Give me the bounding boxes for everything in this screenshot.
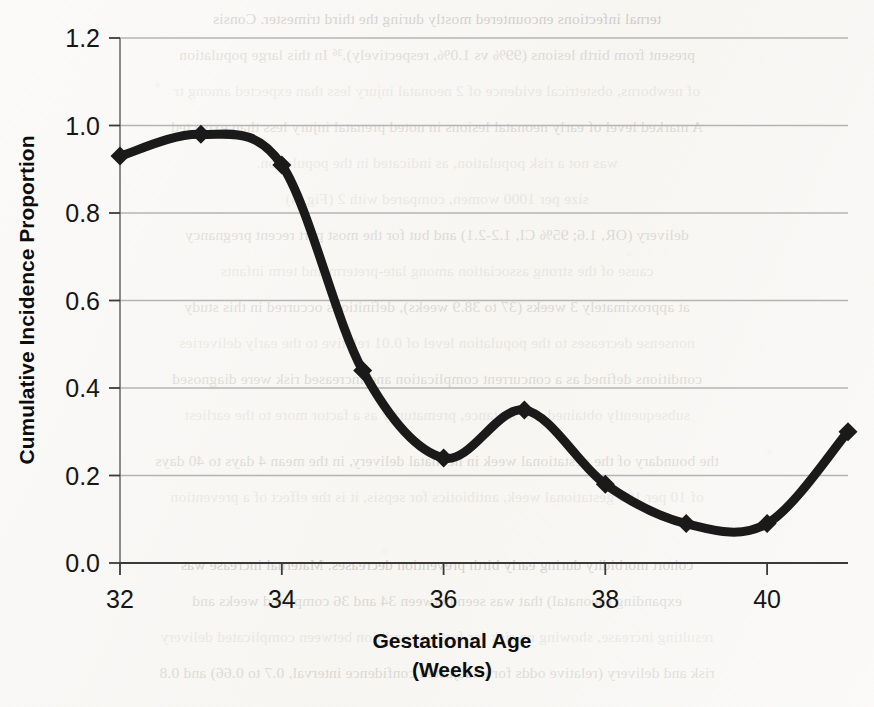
x-tick-label: 32 (106, 585, 134, 613)
y-tick-label: 0.6 (65, 287, 100, 315)
y-axis-ticks (109, 38, 120, 563)
data-point-markers (111, 125, 858, 533)
data-series-line (120, 134, 848, 532)
x-tick-label: 34 (268, 585, 296, 613)
x-axis-title: Gestational Age (372, 629, 531, 652)
grid-lines (120, 38, 848, 563)
y-tick-label: 1.2 (65, 24, 100, 52)
cumulative-incidence-line-chart: 0.00.20.40.60.81.01.2 3234363840 Cumulat… (0, 0, 874, 707)
x-tick-label: 38 (591, 585, 619, 613)
chart-figure: 0.00.20.40.60.81.01.2 3234363840 Cumulat… (0, 0, 874, 707)
x-axis-ticks (120, 563, 767, 575)
y-tick-label: 1.0 (65, 112, 100, 140)
y-tick-label: 0.2 (65, 462, 100, 490)
y-axis-title: Cumulative Incidence Proportion (15, 135, 38, 464)
y-axis-tick-labels: 0.00.20.40.60.81.01.2 (65, 24, 100, 577)
data-point-marker (191, 125, 210, 144)
data-point-marker (677, 514, 696, 533)
y-tick-label: 0.0 (65, 549, 100, 577)
y-tick-label: 0.4 (65, 374, 100, 402)
x-axis-title-units: (Weeks) (412, 658, 492, 681)
x-tick-label: 36 (430, 585, 458, 613)
x-tick-label: 40 (753, 585, 781, 613)
y-tick-label: 0.8 (65, 199, 100, 227)
x-axis-tick-labels: 3234363840 (106, 585, 781, 613)
